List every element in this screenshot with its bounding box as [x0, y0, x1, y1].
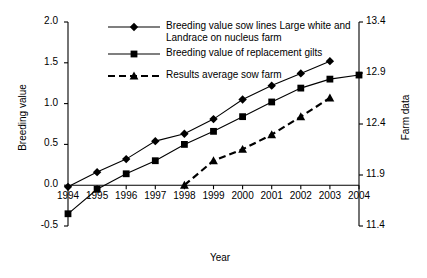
legend-marker-diamond: [130, 23, 138, 31]
data-point-triangle: [326, 93, 335, 101]
data-point-square: [356, 72, 363, 79]
legend-label-line2: Landrace on nucleus farm: [166, 32, 351, 44]
legend-label-3: Results average sow farm: [166, 69, 282, 81]
legend-marker-square: [131, 51, 138, 58]
data-point-square: [210, 128, 217, 135]
y-axis-title-left: Breeding value: [17, 70, 28, 166]
data-point-triangle: [267, 130, 276, 138]
data-point-diamond: [238, 95, 246, 103]
y-tick-label-left: 0.0: [28, 178, 58, 189]
data-point-square: [65, 210, 72, 217]
data-point-diamond: [122, 155, 130, 163]
data-point-square: [297, 85, 304, 92]
y-tick-label-left: 1.0: [28, 97, 58, 108]
y-tick-label-left: 0.5: [28, 137, 58, 148]
data-point-diamond: [180, 130, 188, 138]
legend-label-line1: Results average sow farm: [166, 69, 282, 81]
data-point-diamond: [130, 23, 138, 31]
y-tick-label-left: 2.0: [28, 15, 58, 26]
y-tick-label-right: 12.4: [366, 117, 400, 128]
series-3: [180, 93, 334, 188]
legend-label-line1: Breeding value of replacement gilts: [166, 47, 322, 59]
data-point-square: [268, 99, 275, 106]
data-point-square: [327, 76, 334, 83]
series-line: [184, 98, 330, 185]
data-point-diamond: [268, 81, 276, 89]
data-point-square: [181, 141, 188, 148]
y-tick-label-right: 11.9: [366, 168, 400, 179]
y-tick-label-right: 11.4: [366, 219, 400, 230]
x-tick-label: 2004: [342, 190, 376, 201]
y-tick-label-right: 13.4: [366, 15, 400, 26]
chart-container: Breeding value Farm data Year 2.01.51.00…: [0, 0, 427, 278]
data-point-diamond: [209, 115, 217, 123]
data-point-square: [152, 157, 159, 164]
y-tick-label-right: 12.9: [366, 66, 400, 77]
data-point-square: [239, 113, 246, 120]
legend-label-1: Breeding value sow lines Large white and…: [166, 20, 351, 43]
x-axis-title: Year: [140, 252, 300, 263]
data-point-diamond: [151, 137, 159, 145]
data-point-triangle: [296, 112, 305, 120]
data-point-square: [131, 51, 138, 58]
data-point-diamond: [326, 57, 334, 65]
data-point-diamond: [93, 168, 101, 176]
data-point-triangle: [209, 156, 218, 164]
legend-label-line1: Breeding value sow lines Large white and: [166, 20, 351, 32]
y-tick-label-left: -0.5: [28, 219, 58, 230]
data-point-square: [123, 170, 130, 177]
y-tick-label-left: 1.5: [28, 56, 58, 67]
y-axis-title-right: Farm data: [400, 70, 411, 166]
legend-label-2: Breeding value of replacement gilts: [166, 47, 322, 59]
data-point-diamond: [297, 69, 305, 77]
